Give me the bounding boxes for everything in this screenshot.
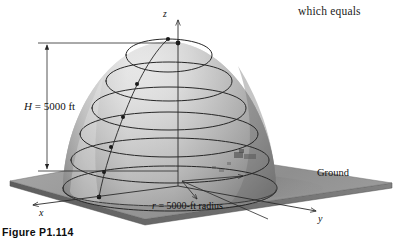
ground-label: Ground: [317, 168, 349, 179]
height-label: H = 5000 ft: [24, 101, 75, 112]
scan-speck: [244, 154, 256, 159]
hill-body-group: [63, 41, 276, 206]
scan-speck: [212, 166, 216, 169]
scan-speck: [219, 169, 224, 172]
scan-speck: [239, 149, 244, 153]
scan-speck: [227, 162, 231, 165]
meridian-node-dot: [166, 37, 170, 41]
height-symbol: H: [24, 100, 32, 112]
meridian-node-dot: [109, 145, 113, 149]
body-text-fragment: which equals: [298, 6, 361, 18]
radius-value: = 5000-ft radius: [156, 200, 223, 211]
meridian-node-dot: [121, 115, 125, 119]
figure-caption: Figure P1.114: [2, 227, 74, 238]
axis-label-y: y: [318, 214, 322, 224]
axis-label-z: z: [163, 10, 167, 20]
radius-label: r = 5000-ft radius: [152, 201, 223, 211]
figure-illustration: which equals H = 5000 ft r = 5000-ft rad…: [0, 0, 401, 241]
axis-label-x: x: [39, 208, 43, 218]
height-value: = 5000 ft: [32, 100, 75, 112]
meridian-node-dot: [135, 82, 139, 86]
